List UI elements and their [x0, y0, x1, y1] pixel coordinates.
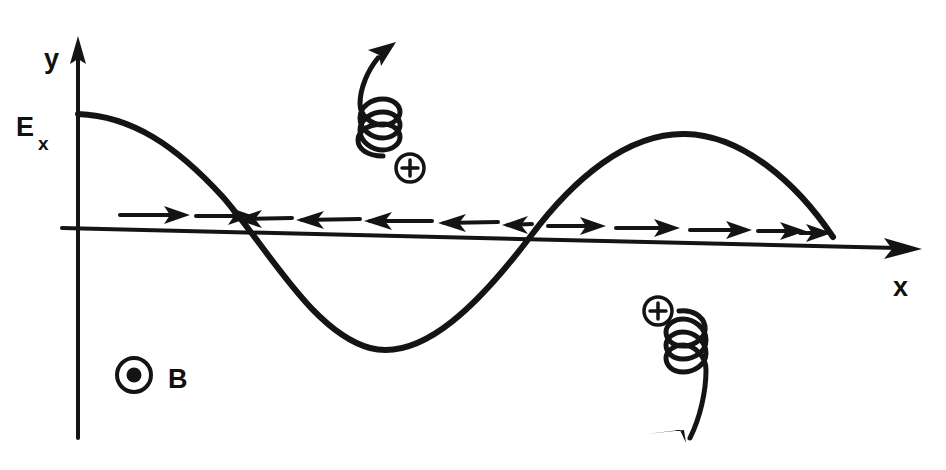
dot-in-circle-out-of-page-icon [117, 358, 151, 392]
helix-arrow-up-icon [358, 58, 400, 156]
x-axis-label: x [893, 272, 908, 302]
field-arrow-icon [690, 221, 752, 239]
field-arrow-icon [758, 222, 806, 240]
amplitude-label: E x [16, 112, 49, 154]
figure-canvas: y E x x [0, 0, 946, 470]
field-arrow-icon [438, 214, 498, 232]
physics-figure: y E x x [0, 0, 946, 470]
upper-helix [358, 42, 400, 156]
field-arrow-icon [120, 206, 190, 224]
amplitude-label-base: E [16, 112, 34, 142]
field-arrow-icon [296, 211, 360, 229]
field-arrow-group-segment-3-right [548, 217, 832, 242]
helix-arrow-down-icon [666, 311, 706, 438]
field-arrow-group-segment-2-left [234, 210, 532, 234]
y-axis-label: y [44, 44, 59, 74]
field-arrow-icon [616, 219, 680, 237]
magnetic-field-label: B [168, 364, 188, 394]
field-arrow-icon [364, 212, 432, 230]
y-axis [70, 36, 86, 438]
helix-down-arrowhead-icon [646, 430, 686, 443]
field-arrow-icon [548, 217, 606, 235]
circled-plus-icon-upper [396, 154, 424, 182]
circled-plus-icon-lower [644, 297, 672, 325]
amplitude-label-subscript: x [38, 133, 49, 154]
magnetic-field-symbol: B [117, 358, 188, 394]
lower-helix [646, 311, 706, 443]
field-arrow-icon [502, 216, 532, 234]
